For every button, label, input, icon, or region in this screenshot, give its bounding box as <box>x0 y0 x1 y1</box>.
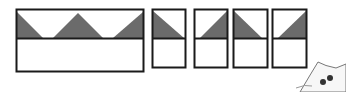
diagram-canvas <box>0 0 346 92</box>
small-rect-3 <box>233 10 268 68</box>
small-rect-2 <box>194 10 228 68</box>
small-rect-1 <box>152 10 186 68</box>
small-rect-4 <box>272 10 307 68</box>
wide-rectangle <box>16 10 144 72</box>
